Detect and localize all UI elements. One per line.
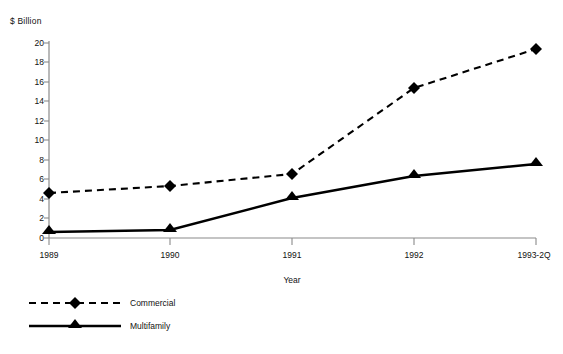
x-tick-label-1989: 1989 [25,250,73,260]
legend-label-multifamily: Multifamily [130,321,170,331]
x-tick-label-1993-2q: 1993-2Q [505,250,563,260]
y-tick-marks [44,43,49,238]
x-axis-title: Year [252,275,332,285]
x-tick-label-1990: 1990 [146,250,194,260]
x-tick-label-1991: 1991 [268,250,316,260]
legend-swatch-commercial [29,297,121,309]
legend-swatch-multifamily [29,319,121,328]
legend-label-commercial: Commercial [130,298,175,308]
series-markers-commercial [43,43,542,199]
x-tick-label-1992: 1992 [390,250,438,260]
x-tick-marks [49,238,536,245]
chart-plot-area [0,0,563,354]
chart-figure: $ Billion 20 18 16 14 12 10 8 6 4 2 0 [0,0,563,354]
